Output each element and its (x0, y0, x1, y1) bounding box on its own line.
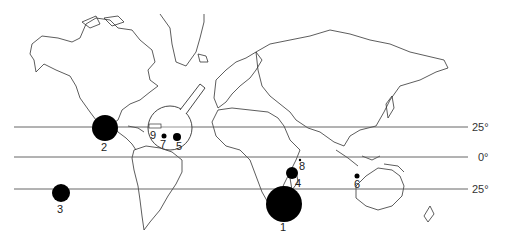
island-outline-9 (149, 124, 161, 128)
coastlines (30, 14, 448, 230)
site-bubble-3 (52, 184, 70, 202)
site-label-1: 1 (280, 221, 286, 233)
latitude-label-equator: 0° (478, 151, 489, 163)
site-label-3: 3 (57, 203, 63, 215)
site-label-5: 5 (176, 140, 182, 152)
site-label-8: 8 (299, 160, 305, 172)
magnifier-handle (180, 84, 205, 114)
site-label-4: 4 (295, 177, 301, 189)
world-map: 25° 0° 25° 1 2 3 4 5 6 7 8 9 (0, 0, 505, 243)
site-label-6: 6 (354, 178, 360, 190)
site-bubble-1 (266, 186, 302, 222)
latitude-label-25n: 25° (472, 121, 489, 133)
site-label-9: 9 (150, 129, 156, 141)
sites: 1 2 3 4 5 6 7 8 9 (52, 115, 360, 233)
site-label-2: 2 (101, 141, 107, 153)
site-bubble-2 (92, 115, 118, 141)
latitude-label-25s: 25° (472, 183, 489, 195)
site-label-7: 7 (160, 138, 166, 150)
latitude-lines: 25° 0° 25° (14, 121, 489, 195)
